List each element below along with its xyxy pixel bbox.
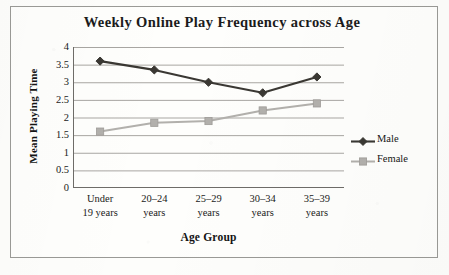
data-point-marker bbox=[259, 107, 266, 114]
y-tick-label: 0.5 bbox=[41, 165, 69, 176]
x-tick-label-line: 30–34 bbox=[233, 192, 293, 206]
plot-area bbox=[73, 47, 344, 188]
data-point-marker bbox=[313, 73, 321, 81]
y-tick-label: 3 bbox=[41, 77, 69, 88]
y-tick-label: 1.5 bbox=[41, 130, 69, 141]
series-layer bbox=[96, 57, 321, 135]
x-tick-label-line: 20–24 bbox=[124, 192, 184, 206]
x-tick-label-line: years bbox=[287, 206, 347, 220]
data-point-marker bbox=[205, 117, 212, 124]
series-line bbox=[100, 61, 317, 93]
x-tick-label-line: years bbox=[179, 206, 239, 220]
x-tick-label: 25–29years bbox=[179, 192, 239, 219]
legend-label: Male bbox=[377, 133, 399, 144]
y-axis-tick-labels: 43.532.521.510.50 bbox=[38, 0, 69, 275]
plot-svg bbox=[73, 47, 344, 188]
legend-marker-diamond-icon bbox=[350, 133, 376, 144]
y-tick-label: 0 bbox=[41, 183, 69, 194]
x-tick-label-line: 19 years bbox=[70, 206, 130, 220]
legend-label: Female bbox=[377, 153, 408, 164]
y-tick-label: 2.5 bbox=[41, 95, 69, 106]
x-tick-label: Under19 years bbox=[70, 192, 130, 219]
x-tick-label-line: years bbox=[124, 206, 184, 220]
legend-marker-square-icon bbox=[350, 153, 376, 164]
x-tick-label: 30–34years bbox=[233, 192, 293, 219]
data-point-marker bbox=[313, 100, 320, 107]
data-point-marker bbox=[96, 57, 104, 65]
x-tick-label: 35–39years bbox=[287, 192, 347, 219]
legend-item-female[interactable]: Female bbox=[350, 148, 434, 168]
x-tick-label: 20–24years bbox=[124, 192, 184, 219]
x-tick-label-line: 25–29 bbox=[179, 192, 239, 206]
x-tick-label-line: 35–39 bbox=[287, 192, 347, 206]
y-tick-label: 4 bbox=[41, 42, 69, 53]
y-tick-label: 3.5 bbox=[41, 60, 69, 71]
x-axis-tick-labels: Under19 years20–24years25–29years30–34ye… bbox=[73, 192, 344, 226]
gridlines bbox=[73, 48, 344, 171]
chart-legend: MaleFemale bbox=[350, 128, 434, 168]
x-axis-title: Age Group bbox=[73, 231, 344, 243]
data-point-marker bbox=[259, 89, 267, 97]
chart-screenshot: Weekly Online Play Frequency across Age … bbox=[0, 0, 449, 275]
data-point-marker bbox=[151, 119, 158, 126]
legend-item-male[interactable]: Male bbox=[350, 128, 434, 148]
data-point-marker bbox=[97, 128, 104, 135]
x-tick-label-line: Under bbox=[70, 192, 130, 206]
chart-title: Weekly Online Play Frequency across Age bbox=[20, 14, 424, 31]
data-point-marker bbox=[150, 66, 158, 74]
series-male bbox=[96, 57, 321, 97]
x-tick-label-line: years bbox=[233, 206, 293, 220]
data-point-marker bbox=[204, 78, 212, 86]
y-tick-label: 2 bbox=[41, 113, 69, 124]
y-tick-label: 1 bbox=[41, 148, 69, 159]
